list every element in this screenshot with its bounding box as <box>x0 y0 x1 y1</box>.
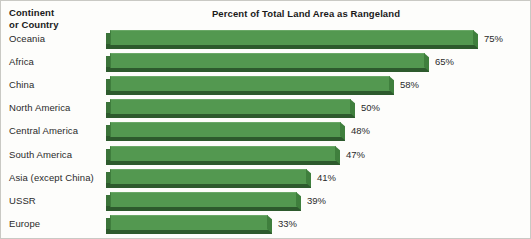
bar-front-face <box>110 169 307 184</box>
bar-value-label: 47% <box>346 149 365 160</box>
category-label: China <box>9 79 34 90</box>
bar <box>106 76 390 95</box>
bar-front-face <box>110 53 425 68</box>
chart-title: Percent of Total Land Area as Rangeland <box>106 8 506 19</box>
bar-value-label: 58% <box>400 79 419 90</box>
bar <box>106 169 307 188</box>
bar-end-cap <box>473 30 478 48</box>
bar <box>106 53 425 72</box>
bar-value-label: 41% <box>317 172 336 183</box>
bar <box>106 30 474 49</box>
bar-front-face <box>110 215 268 230</box>
bar-front-face <box>110 76 390 91</box>
bar-front-face <box>110 122 341 137</box>
bar-front-face <box>110 146 336 161</box>
category-label: Central America <box>9 125 78 136</box>
category-label: USSR <box>9 195 36 206</box>
bar-front-face <box>110 99 351 114</box>
chart-row: USSR39% <box>1 191 531 214</box>
chart-row: China58% <box>1 75 531 98</box>
bar-value-label: 33% <box>278 218 297 229</box>
chart-row: Europe33% <box>1 214 531 237</box>
rangeland-bar-chart: Continent or Country Percent of Total La… <box>0 0 531 239</box>
bar-end-cap <box>335 146 340 164</box>
category-column-header: Continent or Country <box>9 7 59 30</box>
bar-front-face <box>110 192 297 207</box>
chart-row: Asia (except China)41% <box>1 168 531 191</box>
category-label: Africa <box>9 56 34 67</box>
bar-front-face <box>110 30 474 45</box>
bar <box>106 146 336 165</box>
bar-end-cap <box>267 215 272 233</box>
chart-row: Central America48% <box>1 121 531 144</box>
chart-row: Africa65% <box>1 52 531 75</box>
bar-value-label: 48% <box>351 125 370 136</box>
bar-value-label: 39% <box>307 195 326 206</box>
category-label: Oceania <box>9 33 45 44</box>
chart-row: South America47% <box>1 145 531 168</box>
bar <box>106 122 341 141</box>
bar-end-cap <box>296 192 301 210</box>
category-label: North America <box>9 102 71 113</box>
chart-row: North America50% <box>1 98 531 121</box>
bar-value-label: 50% <box>361 102 380 113</box>
bar <box>106 192 297 211</box>
bar-value-label: 65% <box>435 56 454 67</box>
chart-row: Oceania75% <box>1 29 531 52</box>
bar <box>106 215 268 234</box>
category-label: South America <box>9 149 72 160</box>
bar-end-cap <box>306 169 311 187</box>
category-label: Europe <box>9 218 40 229</box>
category-label: Asia (except China) <box>9 172 94 183</box>
category-column-header-line1: Continent <box>9 7 59 19</box>
bar <box>106 99 351 118</box>
plot-area: Oceania75%Africa65%China58%North America… <box>1 29 531 237</box>
bar-value-label: 75% <box>484 33 503 44</box>
